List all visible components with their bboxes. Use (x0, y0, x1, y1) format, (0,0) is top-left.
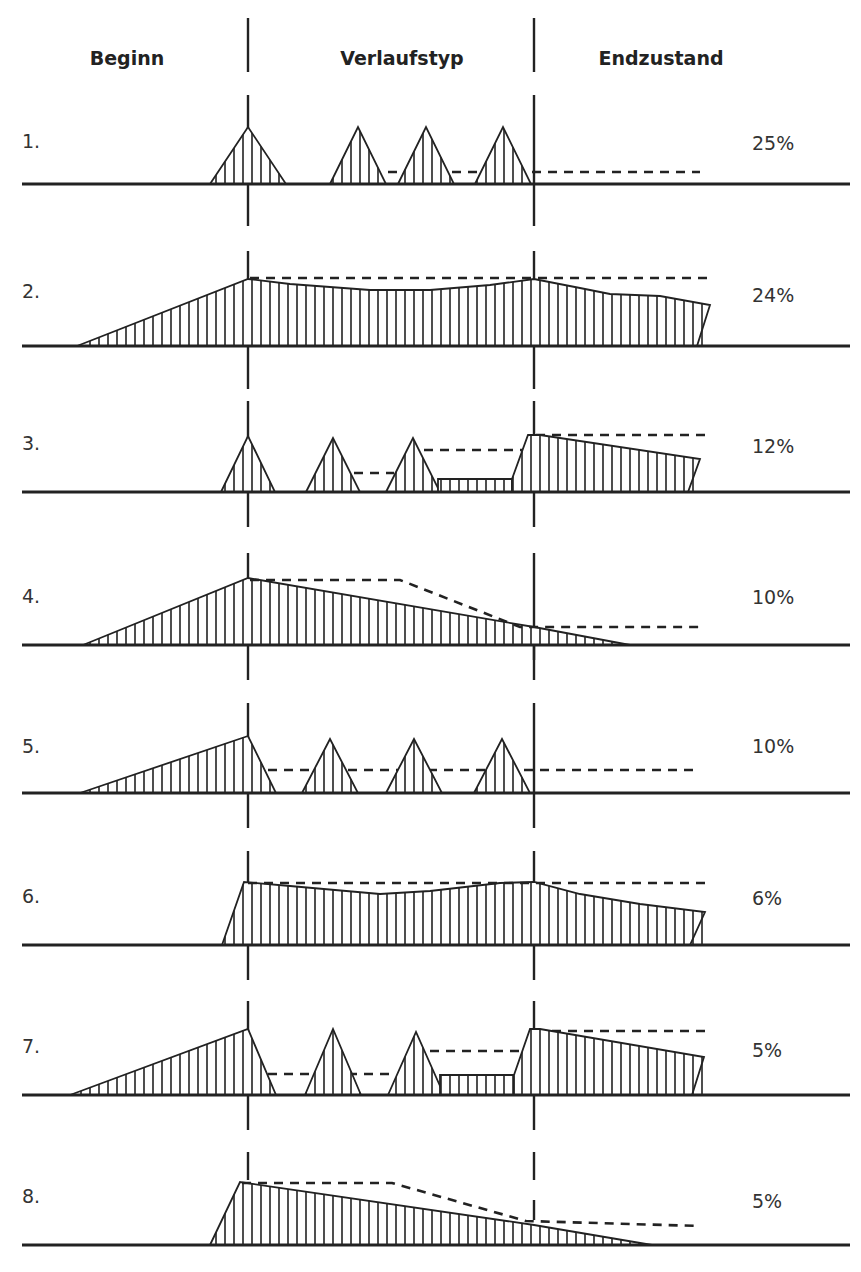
row-number: 4. (22, 585, 40, 607)
row-percentage: 5% (752, 1190, 782, 1212)
row-number: 1. (22, 130, 40, 152)
row-percentage: 10% (752, 735, 794, 757)
row-percentage: 12% (752, 435, 794, 457)
row-number: 6. (22, 885, 40, 907)
row-4-graphic (22, 578, 850, 645)
row-percentage: 6% (752, 887, 782, 909)
header-endzustand: Endzustand (598, 47, 723, 69)
row-percentage: 10% (752, 586, 794, 608)
row-3-graphic (22, 435, 850, 492)
row-number: 2. (22, 280, 40, 302)
course-graphics (22, 127, 850, 1245)
header-beginn: Beginn (90, 47, 165, 69)
row-1: 1. 25% (22, 130, 794, 154)
hatched-area (70, 1029, 276, 1095)
row-7-graphic (22, 1029, 850, 1095)
row-number: 3. (22, 432, 40, 454)
row-percentage: 24% (752, 284, 794, 306)
hatched-area (221, 436, 275, 492)
hatched-area (210, 127, 286, 184)
course-types-diagram: Beginn Verlaufstyp Endzustand 1. 25% 2. … (0, 0, 861, 1272)
row-6-graphic (22, 882, 850, 945)
hatched-area (438, 479, 512, 492)
row-percentage: 5% (752, 1039, 782, 1061)
hatched-area (83, 578, 630, 645)
row-number: 7. (22, 1035, 40, 1057)
row-percentage: 25% (752, 132, 794, 154)
row-5-graphic (22, 736, 850, 793)
hatched-area (222, 882, 705, 945)
row-8-graphic (22, 1182, 850, 1245)
row-number: 5. (22, 735, 40, 757)
hatched-area (398, 127, 454, 184)
row-1-graphic (22, 127, 850, 184)
row-number: 8. (22, 1185, 40, 1207)
hatched-area (80, 736, 276, 793)
hatched-area (77, 279, 710, 346)
header-verlaufstyp: Verlaufstyp (340, 47, 463, 69)
hatched-area (302, 739, 358, 793)
row-2-graphic (22, 278, 850, 346)
